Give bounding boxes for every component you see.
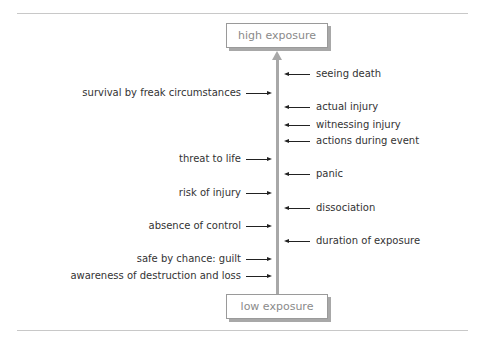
left-factor-label: absence of control — [149, 220, 242, 232]
arrow-left-icon — [288, 107, 310, 108]
arrow-left-icon — [288, 208, 310, 209]
arrow-right-icon — [246, 259, 268, 260]
arrow-left-icon — [288, 141, 310, 142]
arrow-right-icon — [246, 93, 268, 94]
left-factor-label: awareness of destruction and loss — [70, 270, 241, 282]
right-factor-label: seeing death — [316, 68, 381, 80]
left-factor-label: survival by freak circumstances — [82, 87, 241, 99]
exposure-axis — [276, 58, 279, 294]
arrow-left-icon — [288, 174, 310, 175]
right-factor-label: actual injury — [316, 101, 378, 113]
arrow-right-icon — [246, 193, 268, 194]
right-factor-label: actions during event — [316, 135, 419, 147]
arrow-right-icon — [246, 276, 268, 277]
arrow-right-icon — [246, 226, 268, 227]
low-exposure-box: low exposure — [226, 294, 328, 319]
right-factor-label: witnessing injury — [316, 119, 401, 131]
right-factor-label: panic — [316, 168, 343, 180]
arrow-right-icon — [246, 159, 268, 160]
top-divider — [17, 13, 468, 14]
right-factor-label: dissociation — [316, 202, 375, 214]
low-exposure-label: low exposure — [241, 300, 314, 313]
high-exposure-label: high exposure — [238, 29, 316, 42]
high-exposure-box: high exposure — [226, 23, 328, 48]
arrow-left-icon — [288, 74, 310, 75]
left-factor-label: safe by chance: guilt — [137, 253, 241, 265]
left-factor-label: threat to life — [179, 153, 241, 165]
arrow-left-icon — [288, 241, 310, 242]
arrow-left-icon — [288, 125, 310, 126]
right-factor-label: duration of exposure — [316, 235, 420, 247]
bottom-divider — [17, 330, 468, 331]
left-factor-label: risk of injury — [179, 187, 241, 199]
